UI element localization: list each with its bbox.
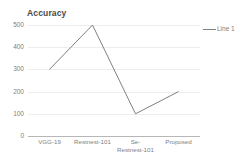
- accuracy-line-chart: Accuracy 5004003002001000 VGG-19Restnest…: [0, 0, 248, 162]
- x-tick-label: VGG-19: [26, 138, 74, 146]
- x-tick-label: Restnest-101: [69, 138, 117, 146]
- line-1-polyline: [50, 25, 179, 114]
- y-axis: 5004003002001000: [0, 25, 24, 136]
- y-tick-label: 300: [0, 66, 24, 73]
- legend-label-line-1: Line 1: [217, 26, 235, 33]
- y-tick-label: 0: [0, 133, 24, 140]
- plot-area: [28, 25, 200, 136]
- y-tick-label: 400: [0, 44, 24, 51]
- chart-title: Accuracy: [27, 8, 66, 18]
- x-axis: VGG-19Restnest-101Se- Restnest-101Propos…: [28, 138, 200, 162]
- legend-swatch-line-1: [203, 29, 216, 30]
- x-tick-label: Se- Restnest-101: [112, 138, 160, 155]
- x-axis-line: [28, 136, 200, 137]
- chart-legend: Line 1: [203, 26, 235, 33]
- y-tick-label: 500: [0, 22, 24, 29]
- y-tick-label: 200: [0, 88, 24, 95]
- series-line-1: [28, 25, 200, 136]
- y-tick-label: 100: [0, 111, 24, 118]
- x-tick-label: Proposed: [155, 138, 203, 146]
